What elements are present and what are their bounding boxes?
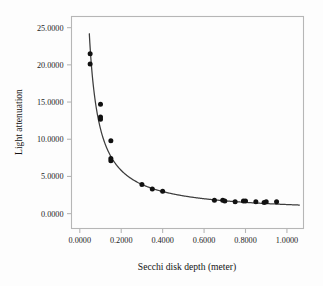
data-point xyxy=(98,102,103,107)
y-tick-label: 10.0000 xyxy=(37,135,64,144)
x-tick-label: 0.0000 xyxy=(69,236,92,245)
data-point xyxy=(212,198,217,203)
x-tick-label: 0.4000 xyxy=(151,236,174,245)
data-point xyxy=(160,189,165,194)
y-tick-label: 20.0000 xyxy=(37,61,64,70)
chart-figure: 0.00000.20000.40000.60000.80001.0000 0.0… xyxy=(0,0,323,286)
data-point xyxy=(274,199,279,204)
data-point xyxy=(222,198,227,203)
y-tick-label: 0.0000 xyxy=(41,210,64,219)
data-point xyxy=(253,199,258,204)
data-point xyxy=(243,198,248,203)
data-point xyxy=(88,51,93,56)
y-tick-label: 5.0000 xyxy=(41,172,64,181)
y-tick-label: 25.0000 xyxy=(37,24,64,33)
data-point xyxy=(150,187,155,192)
data-point xyxy=(233,199,238,204)
x-axis-title: Secchi disk depth (meter) xyxy=(138,261,236,273)
data-point xyxy=(264,199,269,204)
x-tick-label: 0.2000 xyxy=(110,236,133,245)
data-point xyxy=(108,138,113,143)
y-tick-label: 15.0000 xyxy=(37,98,64,107)
y-axis-title: Light attenuation xyxy=(13,89,24,155)
data-point xyxy=(88,62,93,67)
data-point xyxy=(139,182,144,187)
x-tick-label: 1.0000 xyxy=(276,236,299,245)
scatter-plot: 0.00000.20000.40000.60000.80001.0000 0.0… xyxy=(0,0,323,286)
x-tick-label: 0.8000 xyxy=(234,236,257,245)
data-point xyxy=(108,158,113,163)
x-tick-label: 0.6000 xyxy=(193,236,216,245)
data-point xyxy=(98,117,103,122)
